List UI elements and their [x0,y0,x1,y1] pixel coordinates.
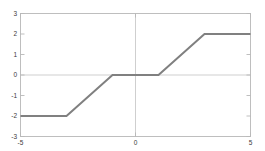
x-tick-label-5: 5 [249,139,253,146]
x-tick-label-minus-5: -5 [18,139,24,146]
y-tick-label-minus-2: -2 [11,112,17,119]
y-tick-label-1: 1 [13,51,17,58]
y-tick-label-2: 2 [13,30,17,37]
y-tick-label-minus-3: -3 [11,133,17,140]
line-chart: 3 2 1 0 -1 -2 -3 -5 0 5 [0,0,265,151]
y-tick-label-3: 3 [13,10,17,17]
y-tick-label-0: 0 [13,71,17,78]
y-tick-label-minus-1: -1 [11,92,17,99]
x-tick-label-0: 0 [134,139,138,146]
figure-container: 3 2 1 0 -1 -2 -3 -5 0 5 [0,0,265,151]
